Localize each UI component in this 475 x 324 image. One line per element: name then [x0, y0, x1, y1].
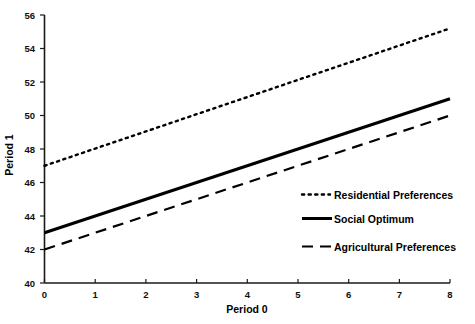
legend-label-residential-preferences: Residential Preferences — [334, 189, 453, 201]
y-axis: 56 54 52 50 48 46 44 42 40 Period 1 — [3, 10, 45, 289]
x-tick-label-0: 0 — [42, 289, 47, 300]
legend-item-residential-preferences[interactable]: Residential Preferences — [302, 189, 453, 201]
y-axis-title: Period 1 — [3, 134, 15, 176]
chart-canvas: 56 54 52 50 48 46 44 42 40 Period 1 0 1 — [0, 0, 475, 324]
series-line-residential-preferences — [45, 28, 451, 165]
y-tick-label-54: 54 — [24, 43, 35, 54]
legend-item-social-optimum[interactable]: Social Optimum — [302, 213, 414, 225]
x-tick-label-3: 3 — [194, 289, 199, 300]
series-line-agricultural-preferences — [45, 116, 451, 250]
y-tick-label-52: 52 — [24, 77, 35, 88]
x-tick-label-5: 5 — [295, 289, 301, 300]
x-axis: 0 1 2 3 4 5 6 7 8 Period 0 — [42, 279, 453, 315]
y-tick-label-40: 40 — [24, 278, 35, 289]
y-tick-label-42: 42 — [24, 244, 35, 255]
chart-legend: Residential Preferences Social Optimum A… — [302, 189, 456, 253]
x-tick-label-8: 8 — [447, 289, 452, 300]
legend-label-social-optimum: Social Optimum — [334, 213, 414, 225]
x-axis-title: Period 0 — [226, 303, 268, 315]
legend-item-agricultural-preferences[interactable]: Agricultural Preferences — [302, 241, 456, 253]
x-tick-label-1: 1 — [93, 289, 99, 300]
legend-label-agricultural-preferences: Agricultural Preferences — [334, 241, 456, 253]
x-tick-label-4: 4 — [245, 289, 251, 300]
y-tick-label-56: 56 — [24, 10, 35, 21]
x-tick-label-2: 2 — [143, 289, 148, 300]
y-tick-label-44: 44 — [24, 211, 35, 222]
x-tick-label-6: 6 — [346, 289, 351, 300]
y-tick-label-50: 50 — [24, 110, 35, 121]
y-tick-label-46: 46 — [24, 177, 35, 188]
x-tick-label-7: 7 — [397, 289, 402, 300]
y-tick-label-48: 48 — [24, 144, 35, 155]
chart-container: 56 54 52 50 48 46 44 42 40 Period 1 0 1 — [0, 0, 475, 324]
